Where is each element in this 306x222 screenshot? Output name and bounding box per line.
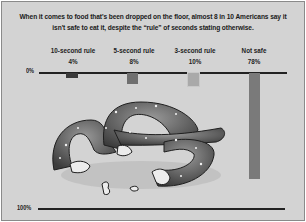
bar-3-second [188, 73, 199, 86]
category-label-3-second: 3-second rule [170, 46, 221, 55]
axis-label-0: 0% [26, 67, 34, 74]
pretzel-illustration [46, 100, 226, 200]
value-label-3-second: 10% [170, 57, 221, 66]
value-label-5-second: 8% [109, 57, 160, 66]
value-label-10-second: 4% [48, 57, 99, 66]
chart-frame: When it comes to food that's been droppe… [1, 1, 305, 221]
bar-not-safe [249, 73, 260, 179]
category-label-not-safe: Not safe [229, 46, 280, 55]
chart-title: When it comes to food that's been droppe… [18, 11, 288, 33]
hundred-axis-line [38, 208, 285, 210]
bar-10-second [66, 73, 78, 78]
category-label-5-second: 5-second rule [109, 46, 160, 55]
value-label-not-safe: 78% [229, 57, 280, 66]
axis-label-100: 100% [17, 204, 31, 211]
category-label-10-second: 10-second rule [48, 46, 99, 55]
bar-5-second [127, 73, 138, 84]
